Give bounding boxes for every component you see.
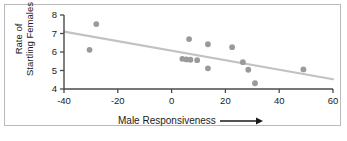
data-point-1 [87, 47, 93, 53]
x-tick-label: -40 [51, 96, 77, 106]
x-tick-label: -20 [105, 96, 131, 106]
y-tick-label: 4 [43, 84, 57, 94]
x-tick-label: 60 [320, 96, 346, 106]
arrow-right-icon [220, 116, 264, 126]
x-tick-label: 40 [266, 96, 292, 106]
data-point-8 [205, 65, 211, 71]
data-point-5 [188, 57, 194, 63]
trend-line [64, 32, 333, 80]
data-point-4 [186, 36, 192, 42]
data-point-11 [245, 67, 251, 73]
x-tick-label: 0 [159, 96, 185, 106]
y-tick-label: 5 [43, 66, 57, 76]
x-axis-label-group: Male Responsiveness [118, 115, 264, 126]
y-tick-label: 7 [43, 29, 57, 39]
data-point-10 [240, 59, 246, 65]
data-point-13 [301, 66, 307, 72]
regression-line [64, 32, 333, 80]
scatter-plot-figure: Rate of Startling Females Male Responsiv… [0, 0, 347, 141]
data-points [87, 21, 307, 86]
plot-axes [60, 15, 333, 93]
data-point-9 [229, 44, 235, 50]
x-axis-label: Male Responsiveness [118, 115, 216, 126]
y-axis-label-line1: Rate of [13, 0, 24, 81]
y-tick-label: 6 [43, 47, 57, 57]
y-axis-label: Rate of Startling Females [13, 0, 35, 81]
data-point-12 [252, 80, 258, 86]
data-point-0 [93, 21, 99, 27]
data-point-6 [194, 57, 200, 63]
y-axis-label-line2: Startling Females [24, 0, 35, 81]
y-tick-label: 8 [43, 10, 57, 20]
data-point-7 [205, 41, 211, 47]
x-tick-label: 20 [212, 96, 238, 106]
